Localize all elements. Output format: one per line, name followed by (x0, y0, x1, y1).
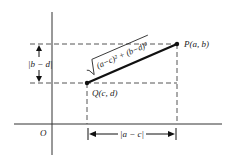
distance-diagram: |b − d| |a − c| O P(a, b) Q(c, d) (a−c)²… (0, 0, 234, 161)
point-q (85, 81, 89, 85)
point-q-label: Q(c, d) (92, 88, 118, 98)
origin-label: O (40, 128, 47, 138)
diagram-canvas: |b − d| |a − c| O P(a, b) Q(c, d) (a−c)²… (0, 0, 234, 161)
vertical-distance-label: |b − d| (28, 59, 53, 69)
horizontal-distance-label: |a − c| (120, 129, 144, 139)
point-p-label: P(a, b) (183, 39, 209, 49)
point-p (175, 42, 179, 46)
